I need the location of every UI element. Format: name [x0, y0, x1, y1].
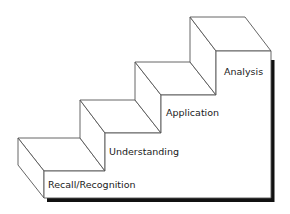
- step-label-understanding: Understanding: [109, 146, 179, 157]
- staircase-outline: [18, 17, 271, 198]
- step-label-analysis: Analysis: [224, 66, 263, 77]
- staircase-diagram: Recall/Recognition Understanding Applica…: [0, 0, 290, 214]
- step-label-recall: Recall/Recognition: [48, 179, 136, 190]
- step-label-application: Application: [166, 107, 219, 118]
